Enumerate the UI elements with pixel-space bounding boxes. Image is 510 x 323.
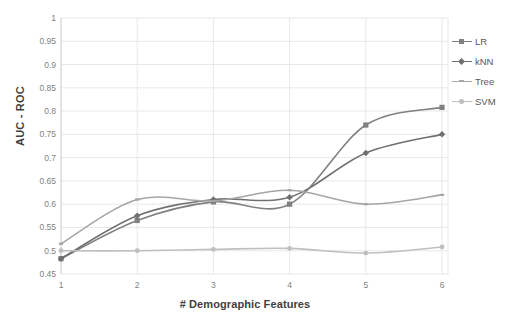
series-tree — [59, 189, 444, 245]
data-point — [439, 131, 446, 138]
data-point — [440, 194, 444, 196]
data-point — [287, 202, 292, 207]
x-axis-tick-label: 4 — [275, 280, 305, 290]
y-axis-tick-label: 0.55 — [10, 222, 56, 232]
legend-label: SVM — [475, 96, 496, 107]
series-line — [61, 190, 442, 244]
series-knn — [58, 131, 446, 262]
y-axis-tick-label: 1 — [10, 13, 56, 23]
x-axis-tick-label: 5 — [351, 280, 381, 290]
legend-swatch-icon — [452, 56, 472, 66]
y-axis-tick-label: 0.7 — [10, 153, 56, 163]
data-point — [211, 247, 216, 252]
series-lr — [58, 105, 444, 261]
y-axis-tick-label: 0.95 — [10, 36, 56, 46]
legend-label: LR — [475, 36, 487, 47]
legend-item-knn[interactable]: kNN — [452, 51, 508, 71]
legend-item-lr[interactable]: LR — [452, 31, 508, 51]
legend-label: Tree — [475, 76, 494, 87]
legend-label: kNN — [475, 56, 493, 67]
y-axis-tick-label: 0.65 — [10, 176, 56, 186]
data-point — [363, 251, 368, 256]
y-axis-tick-label: 0.75 — [10, 129, 56, 139]
data-point — [135, 248, 140, 253]
data-point — [286, 194, 293, 201]
y-axis-tick-label: 0.85 — [10, 83, 56, 93]
legend-item-svm[interactable]: SVM — [452, 91, 508, 111]
data-point — [363, 122, 368, 127]
y-axis-tick-label: 0.6 — [10, 199, 56, 209]
data-point — [135, 198, 139, 200]
y-axis-ticks: 0.450.50.550.60.650.70.750.80.850.90.951 — [0, 0, 56, 323]
data-point — [211, 200, 215, 202]
legend-swatch-icon — [452, 36, 472, 46]
y-axis-tick-label: 0.5 — [10, 246, 56, 256]
plot-area — [0, 0, 510, 323]
chart-container: AUC - ROC 0.450.50.550.60.650.70.750.80.… — [0, 0, 510, 323]
x-axis-tick-label: 3 — [198, 280, 228, 290]
series-line — [61, 247, 442, 253]
data-point — [59, 248, 64, 253]
y-axis-tick-label: 0.45 — [10, 269, 56, 279]
series-line — [61, 107, 442, 258]
x-axis-tick-label: 6 — [427, 280, 457, 290]
legend-item-tree[interactable]: Tree — [452, 71, 508, 91]
x-axis-tick-label: 2 — [122, 280, 152, 290]
data-point — [364, 203, 368, 205]
y-axis-tick-label: 0.8 — [10, 106, 56, 116]
x-axis-title: # Demographic Features — [0, 298, 490, 310]
y-axis-tick-label: 0.9 — [10, 60, 56, 70]
data-point — [439, 105, 444, 110]
data-point — [287, 246, 292, 251]
chart-legend: LRkNNTreeSVM — [452, 31, 508, 111]
data-point — [59, 243, 63, 245]
series-svm — [59, 245, 445, 256]
legend-swatch-icon — [452, 96, 472, 106]
data-point — [440, 245, 445, 250]
data-point — [363, 150, 370, 157]
series-line — [61, 134, 442, 258]
x-axis-tick-label: 1 — [46, 280, 76, 290]
data-point — [287, 189, 291, 191]
legend-swatch-icon — [452, 76, 472, 86]
